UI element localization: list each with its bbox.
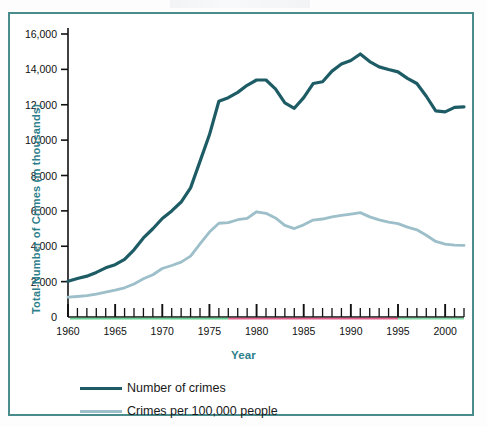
legend-label-crimes-per-100000: Crimes per 100,000 people [127, 404, 278, 418]
x-axis-tick-label: 1965 [103, 325, 127, 337]
legend-label-number-of-crimes: Number of crimes [127, 381, 226, 395]
legend-line-swatch-dark [80, 387, 122, 390]
x-axis-tick-label: 1960 [56, 325, 80, 337]
x-axis-tick-label: 1980 [245, 325, 269, 337]
chart-figure: 02,0004,0006,0008,00010,00012,00014,0001… [0, 0, 487, 427]
legend-item-crimes-per-100000: Crimes per 100,000 people [80, 401, 420, 421]
legend-item-number-of-crimes: Number of crimes [80, 378, 420, 398]
series-line-number-of-crimes [68, 54, 464, 281]
chart-legend: Number of crimes Crimes per 100,000 peop… [80, 378, 420, 424]
x-axis-tick-label: 1990 [339, 325, 363, 337]
x-axis-tick-label: 2000 [433, 325, 457, 337]
x-axis-tick-label: 1995 [386, 325, 410, 337]
x-axis-tick-label: 1985 [292, 325, 316, 337]
y-axis-title-wrapper: Total Number of Crimes (in thousands) [12, 46, 32, 316]
y-axis-tick-label: 0 [51, 311, 57, 323]
y-axis-title: Total Number of Crimes (in thousands) [30, 104, 42, 314]
x-axis-tick-label: 1975 [198, 325, 222, 337]
legend-line-swatch-light [80, 410, 122, 413]
x-axis-title: Year [0, 349, 487, 361]
y-axis-tick-label: 16,000 [25, 28, 57, 40]
x-axis-tick-label: 1970 [151, 325, 175, 337]
scan-artifact-strip [170, 0, 310, 8]
